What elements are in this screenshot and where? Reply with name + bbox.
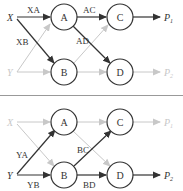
node-a: A [51,109,77,135]
path-diagram: A B C D X Y P1 P2 XA XB AC AD [0,0,183,191]
sink-p1-label: P1 [163,117,173,129]
edge-label-ac: AC [83,5,96,15]
node-a-label: A [60,117,68,128]
source-x-label: X [6,117,14,128]
panel-bottom: A B C D X Y P1 P2 YA YB BC BD [6,109,173,190]
node-b-label: B [61,170,68,181]
node-c-label: C [117,117,124,128]
node-d: D [107,162,133,188]
node-d-label: D [116,170,123,181]
sink-p1-label: P1 [163,12,173,24]
node-d-label: D [116,67,123,78]
panel-top: A B C D X Y P1 P2 XA XB AC AD [6,4,173,85]
node-c: C [107,109,133,135]
node-b: B [51,162,77,188]
source-x-label: X [6,12,14,23]
node-c-label: C [117,12,124,23]
node-d: D [107,59,133,85]
edge-label-xb: XB [16,37,29,47]
edge-y-a [17,24,50,72]
edge-label-yb: YB [27,180,40,190]
node-a: A [51,4,77,30]
node-b: B [51,59,77,85]
edge-label-xa: XA [27,5,40,15]
sink-p2-label: P2 [163,170,173,182]
source-y-label: Y [7,67,14,78]
edge-label-bd: BD [83,180,96,190]
source-y-label: Y [7,170,14,181]
edge-label-ad: AD [76,36,89,46]
edge-label-ya: YA [16,150,29,160]
node-c: C [107,4,133,30]
sink-p2-label: P2 [163,67,173,79]
node-a-label: A [60,12,68,23]
edge-label-bc: BC [77,145,89,155]
node-b-label: B [61,67,68,78]
